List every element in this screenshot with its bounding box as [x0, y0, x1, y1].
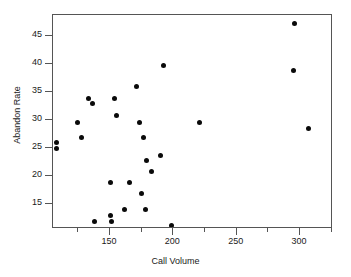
data-point: [108, 180, 113, 185]
data-point: [161, 63, 166, 68]
data-point: [137, 120, 142, 125]
data-point: [141, 135, 146, 140]
x-axis-tick: [299, 228, 300, 235]
data-point: [75, 120, 80, 125]
y-axis-tick: [45, 119, 52, 120]
data-point: [139, 191, 144, 196]
x-axis-minor-tick: [331, 228, 332, 232]
x-axis-minor-tick: [204, 228, 205, 232]
x-axis-tick: [236, 228, 237, 235]
y-axis-tick-label: 20: [2, 170, 42, 179]
data-point: [79, 135, 84, 140]
y-axis-tick-label: 30: [2, 114, 42, 123]
data-point: [122, 207, 127, 212]
data-point: [54, 146, 59, 151]
x-axis-minor-tick: [141, 228, 142, 232]
x-axis-tick: [109, 228, 110, 235]
y-axis-tick-label: 45: [2, 30, 42, 39]
y-axis-tick: [45, 147, 52, 148]
data-point: [127, 180, 132, 185]
x-axis-tick-label: 300: [279, 237, 319, 246]
data-point: [197, 120, 202, 125]
y-axis-tick-label: 25: [2, 142, 42, 151]
y-axis-tick: [45, 175, 52, 176]
x-axis-tick: [172, 228, 173, 235]
data-point: [306, 126, 311, 131]
data-point: [54, 140, 59, 145]
y-axis-tick: [45, 203, 52, 204]
y-axis-tick: [45, 91, 52, 92]
y-axis-tick-label: 15: [2, 198, 42, 207]
scatter-plot-figure: Abandon Rate Call Volume 152025303540451…: [0, 0, 351, 277]
x-axis-minor-tick: [77, 228, 78, 232]
data-point: [92, 219, 97, 224]
data-point: [90, 101, 95, 106]
data-point: [158, 153, 163, 158]
data-point: [134, 84, 139, 89]
data-point: [112, 96, 117, 101]
data-point: [149, 169, 154, 174]
data-point: [169, 223, 174, 227]
data-point: [109, 219, 114, 224]
data-point: [291, 68, 296, 73]
plot-frame: [52, 14, 332, 228]
x-axis-tick-label: 250: [216, 237, 256, 246]
x-axis-title: Call Volume: [0, 256, 351, 266]
data-point: [114, 113, 119, 118]
data-point: [144, 158, 149, 163]
y-axis-tick-label: 35: [2, 86, 42, 95]
x-axis-minor-tick: [267, 228, 268, 232]
x-axis-tick-label: 200: [152, 237, 192, 246]
y-axis-tick: [45, 35, 52, 36]
y-axis-tick: [45, 63, 52, 64]
y-axis-tick-label: 40: [2, 58, 42, 67]
data-point: [143, 207, 148, 212]
plot-data-area: [53, 15, 331, 227]
data-point: [108, 213, 113, 218]
data-point: [86, 96, 91, 101]
x-axis-tick-label: 150: [89, 237, 129, 246]
data-point: [292, 21, 297, 26]
